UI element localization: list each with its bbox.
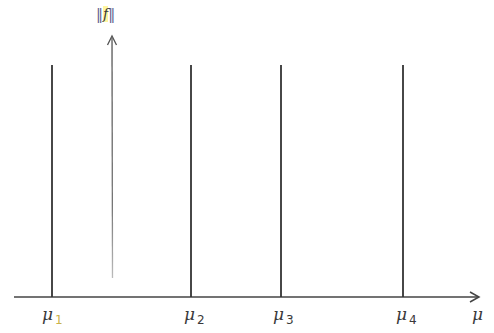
tick-label-mu3: μ3 bbox=[273, 306, 294, 323]
tick-symbol: μ bbox=[396, 304, 407, 324]
norm-bar-right: ‖ bbox=[108, 6, 115, 22]
tick-subscript: 3 bbox=[286, 313, 294, 327]
x-axis-symbol: μ bbox=[472, 304, 483, 324]
tick-subscript: 2 bbox=[197, 313, 205, 327]
tick-label-mu1: μ1 bbox=[42, 306, 63, 323]
diagram-canvas bbox=[0, 0, 494, 333]
tick-subscript: 1 bbox=[55, 313, 63, 327]
tick-symbol: μ bbox=[273, 304, 284, 324]
tick-subscript: 4 bbox=[409, 313, 417, 327]
tick-symbol: μ bbox=[42, 304, 53, 324]
tick-label-mu4: μ4 bbox=[396, 306, 417, 323]
y-axis-label: ‖f‖ bbox=[96, 7, 115, 21]
tick-label-mu2: μ2 bbox=[184, 306, 205, 323]
norm-bar-left: ‖ bbox=[96, 6, 103, 22]
x-axis-label: μ bbox=[472, 306, 483, 323]
tick-symbol: μ bbox=[184, 304, 195, 324]
y-axis bbox=[112, 38, 113, 278]
